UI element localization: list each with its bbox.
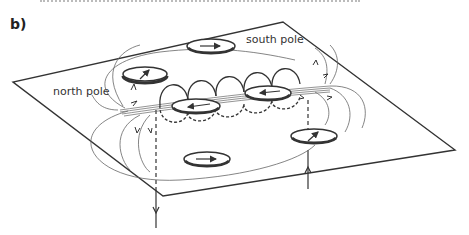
compass-right bbox=[291, 129, 337, 143]
compass-bottom bbox=[184, 152, 230, 166]
compass-coil-left bbox=[172, 99, 220, 113]
inner-field-lines bbox=[120, 86, 330, 116]
compass-top-left bbox=[123, 67, 167, 83]
compass-top-center bbox=[187, 39, 235, 53]
right-wire bbox=[305, 100, 311, 189]
solenoid-field-diagram bbox=[0, 0, 469, 235]
compass-coil-right bbox=[245, 86, 291, 100]
left-wire bbox=[153, 110, 159, 228]
